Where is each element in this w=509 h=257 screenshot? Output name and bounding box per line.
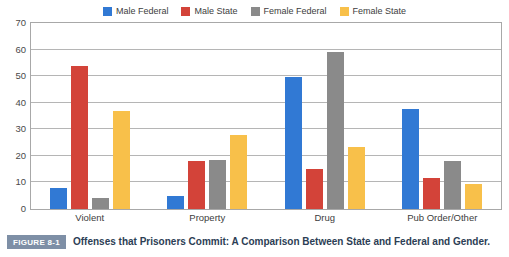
x-axis-tick: Violent	[31, 211, 149, 227]
figure-caption-text: Offenses that Prisoners Commit: A Compar…	[73, 236, 490, 248]
bar[interactable]	[113, 111, 130, 209]
y-axis-tick: 50	[15, 70, 26, 81]
legend-item[interactable]: Female Federal	[251, 7, 327, 16]
legend-item[interactable]: Male State	[181, 7, 237, 16]
bar[interactable]	[230, 135, 247, 209]
y-axis-tick: 10	[15, 176, 26, 187]
bar-group	[384, 23, 502, 209]
legend-swatch-icon	[251, 7, 260, 16]
legend-swatch-icon	[181, 7, 190, 16]
legend-item-label: Male State	[194, 7, 237, 16]
legend-item-label: Male Federal	[116, 7, 169, 16]
legend-item[interactable]: Male Federal	[103, 7, 169, 16]
x-axis-tick: Property	[149, 211, 267, 227]
figure-container: Male FederalMale StateFemale FederalFema…	[0, 0, 509, 257]
figure-number-badge: FIGURE 8-1	[7, 235, 66, 249]
legend-item[interactable]: Female State	[340, 7, 407, 16]
bar[interactable]	[209, 160, 226, 209]
legend-item-label: Female State	[353, 7, 407, 16]
legend-swatch-icon	[340, 7, 349, 16]
x-axis-tick-labels: ViolentPropertyDrugPub Order/Other	[31, 211, 501, 227]
bars-layer	[31, 23, 501, 209]
y-axis-tick: 70	[15, 17, 26, 28]
y-axis-tick: 40	[15, 96, 26, 107]
bar-group	[31, 23, 149, 209]
bar[interactable]	[167, 196, 184, 209]
bar-group	[149, 23, 267, 209]
bar[interactable]	[327, 52, 344, 209]
bar[interactable]	[423, 178, 440, 209]
chart-legend: Male FederalMale StateFemale FederalFema…	[0, 4, 509, 18]
x-axis-tick: Drug	[266, 211, 384, 227]
bar[interactable]	[465, 184, 482, 209]
legend-swatch-icon	[103, 7, 112, 16]
x-axis-tick: Pub Order/Other	[384, 211, 502, 227]
bar[interactable]	[71, 66, 88, 209]
figure-caption: FIGURE 8-1 Offenses that Prisoners Commi…	[0, 231, 509, 253]
bar[interactable]	[285, 77, 302, 209]
y-axis-tick: 20	[15, 149, 26, 160]
y-axis-tick: 60	[15, 43, 26, 54]
bar[interactable]	[92, 198, 109, 209]
bar[interactable]	[50, 188, 67, 209]
legend-item-label: Female Federal	[264, 7, 327, 16]
bar[interactable]	[188, 161, 205, 209]
bar[interactable]	[348, 147, 365, 209]
y-axis-tick: 0	[21, 203, 26, 214]
bar-group	[266, 23, 384, 209]
y-axis-tick-labels: 010203040506070	[0, 22, 26, 210]
bar[interactable]	[444, 161, 461, 209]
bar[interactable]	[402, 109, 419, 209]
bar[interactable]	[306, 169, 323, 209]
y-axis-tick: 30	[15, 123, 26, 134]
